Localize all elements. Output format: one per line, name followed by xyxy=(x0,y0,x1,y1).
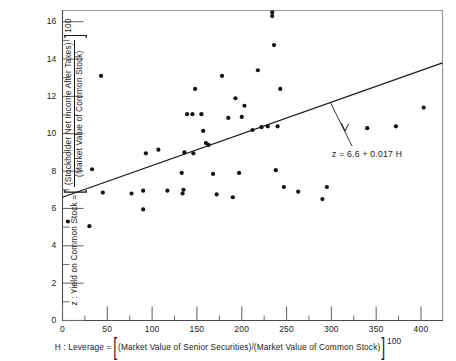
data-point xyxy=(272,43,276,47)
data-point xyxy=(181,188,185,192)
data-point xyxy=(226,116,230,120)
y-title-bracket-right: ] xyxy=(67,34,81,38)
data-point xyxy=(129,191,133,195)
data-point xyxy=(320,197,324,201)
x-axis-title: H : Leverage = [ (Market Value of Senior… xyxy=(0,340,456,354)
data-point xyxy=(201,129,205,133)
data-point xyxy=(215,192,219,196)
data-point xyxy=(211,172,215,176)
data-point xyxy=(99,74,103,78)
data-point xyxy=(237,171,241,175)
x-axis-ticks xyxy=(63,307,421,321)
data-point xyxy=(231,195,235,199)
annotation-leader-line xyxy=(330,102,352,146)
scatter-plot-figure: 0246810121416 050100150200250300350400 z… xyxy=(0,0,456,361)
data-point xyxy=(165,189,169,193)
data-point xyxy=(156,148,160,152)
x-tick-label: 350 xyxy=(361,324,391,334)
data-point xyxy=(220,74,224,78)
data-point xyxy=(141,189,145,193)
data-point xyxy=(266,124,270,128)
y-axis-title-prefix: z : Yield on Common Stock = xyxy=(69,195,79,306)
data-point xyxy=(274,168,278,172)
data-point xyxy=(422,106,426,110)
y-title-numerator: (Stockholder Net Income After Taxes) xyxy=(64,40,75,187)
data-point xyxy=(275,124,279,128)
data-point xyxy=(259,125,263,129)
x-tick-label: 200 xyxy=(227,324,257,334)
y-tick-label: 6 xyxy=(27,203,57,213)
data-point xyxy=(141,207,145,211)
data-point xyxy=(270,14,274,18)
y-tick-label: 14 xyxy=(27,54,57,64)
x-tick-label: 250 xyxy=(272,324,302,334)
x-tick-label: 100 xyxy=(137,324,167,334)
data-point xyxy=(233,96,237,100)
x-tick-label: 0 xyxy=(48,324,78,334)
data-point xyxy=(180,191,184,195)
y-tick-label: 12 xyxy=(27,91,57,101)
data-points xyxy=(66,10,426,228)
data-point xyxy=(278,87,282,91)
data-point xyxy=(144,151,148,155)
data-point xyxy=(394,124,398,128)
y-tick-label: 2 xyxy=(27,278,57,288)
data-point xyxy=(270,10,274,14)
data-point xyxy=(250,128,254,132)
x-title-bracket-right: ] xyxy=(382,340,386,354)
data-point xyxy=(325,185,329,189)
x-title-suffix: 100 xyxy=(387,336,401,346)
x-tick-label: 300 xyxy=(316,324,346,334)
data-point xyxy=(242,104,246,108)
data-point xyxy=(101,190,105,194)
y-tick-label: 16 xyxy=(27,16,57,26)
x-tick-label: 400 xyxy=(406,324,436,334)
data-point xyxy=(240,115,244,119)
data-point xyxy=(190,112,194,116)
plot-frame xyxy=(62,10,443,321)
x-tick-label: 50 xyxy=(92,324,122,334)
data-point xyxy=(193,87,197,91)
x-axis-title-prefix: H : Leverage = xyxy=(55,342,112,352)
data-point xyxy=(206,143,210,147)
data-point xyxy=(180,171,184,175)
fit-equation-label: z = 6.6 + 0.017 H xyxy=(332,149,402,159)
y-tick-label: 8 xyxy=(27,166,57,176)
y-title-bracket-left: [ xyxy=(67,189,81,193)
y-title-suffix: 100 xyxy=(63,19,73,33)
data-point xyxy=(256,68,260,72)
data-point xyxy=(199,112,203,116)
x-title-bracket-left: [ xyxy=(113,340,117,354)
y-title-denominator: (Market Value of Common Stock) xyxy=(75,48,85,179)
data-point xyxy=(185,112,189,116)
data-point xyxy=(365,126,369,130)
x-tick-label: 150 xyxy=(182,324,212,334)
data-point xyxy=(282,185,286,189)
y-tick-label: 4 xyxy=(27,240,57,250)
y-title-fraction: (Stockholder Net Income After Taxes) (Ma… xyxy=(64,40,84,187)
data-point xyxy=(87,224,91,228)
data-point xyxy=(90,167,94,171)
data-point xyxy=(296,190,300,194)
y-axis-title: z : Yield on Common Stock = [ (Stockhold… xyxy=(64,2,84,322)
y-tick-label: 10 xyxy=(27,128,57,138)
x-axis-title-body: (Market Value of Senior Securities)/(Mar… xyxy=(118,342,380,352)
data-point xyxy=(182,150,186,154)
data-point xyxy=(191,151,195,155)
